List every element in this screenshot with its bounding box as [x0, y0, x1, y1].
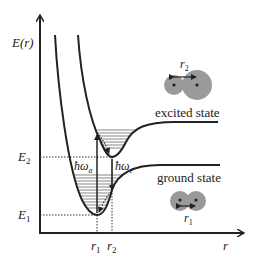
ground-molecule-icon — [170, 191, 206, 211]
ground-vibrational-levels — [60, 175, 140, 208]
energy-level-e2: E2 — [17, 149, 30, 166]
ground-bond-label: r1 — [184, 211, 193, 227]
excited-state-label: excited state — [155, 105, 220, 120]
distance-r2: r2 — [107, 238, 117, 255]
excited-vibrational-levels — [80, 130, 150, 148]
excited-bond-label: r2 — [180, 57, 189, 73]
x-axis-label: r — [223, 238, 229, 253]
excited-molecule-icon — [164, 70, 212, 100]
emission-label: ħωe — [115, 159, 133, 175]
y-axis-label: E(r) — [11, 35, 34, 50]
energy-diagram: E(r) r — [0, 0, 254, 263]
absorption-label: ħωa — [74, 159, 92, 175]
distance-r1: r1 — [91, 238, 101, 255]
ground-state-label: ground state — [157, 170, 221, 185]
energy-level-e1: E1 — [17, 207, 30, 224]
